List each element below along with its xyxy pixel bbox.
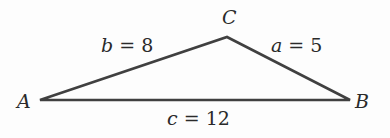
vertex-label-c: C bbox=[222, 6, 237, 28]
triangle-svg: C A B b = 8 a = 5 c = 12 bbox=[0, 0, 390, 138]
side-label-c: c = 12 bbox=[167, 107, 230, 129]
side-c-value: 12 bbox=[206, 107, 230, 129]
triangle-diagram: C A B b = 8 a = 5 c = 12 bbox=[0, 0, 390, 138]
side-b-value: 8 bbox=[141, 34, 153, 56]
side-a-name: a bbox=[271, 34, 282, 56]
side-label-a: a = 5 bbox=[271, 34, 322, 56]
side-b-name: b bbox=[101, 34, 113, 56]
vertex-label-b: B bbox=[354, 90, 369, 112]
vertex-label-a: A bbox=[15, 90, 31, 112]
side-label-b: b = 8 bbox=[101, 34, 153, 56]
side-a-value: 5 bbox=[310, 34, 322, 56]
side-c-name: c bbox=[167, 107, 178, 129]
